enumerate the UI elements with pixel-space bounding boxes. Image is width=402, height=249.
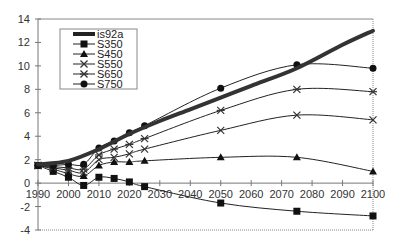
y-tick-label: 6 xyxy=(24,107,30,119)
x-tick-label: 2020 xyxy=(117,188,141,200)
square-marker xyxy=(95,174,102,181)
square-marker xyxy=(111,175,118,182)
square-marker xyxy=(80,182,87,189)
series-line xyxy=(38,115,373,173)
x-tick-label: 2070 xyxy=(269,188,293,200)
x-tick-label: 2010 xyxy=(87,188,111,200)
line-chart: -4-2024681012141990200020102020203020402… xyxy=(0,0,402,249)
star-marker xyxy=(217,107,225,114)
x-marker xyxy=(217,127,224,134)
square-marker xyxy=(126,178,133,185)
x-tick-label: 2040 xyxy=(178,188,202,200)
x-tick-label: 2060 xyxy=(239,188,263,200)
star-marker xyxy=(293,86,301,93)
square-marker xyxy=(217,200,224,207)
x-tick-label: 2050 xyxy=(208,188,232,200)
series-line xyxy=(38,156,373,176)
x-marker xyxy=(126,150,133,157)
y-tick-label: -2 xyxy=(20,201,30,213)
x-marker xyxy=(141,146,148,153)
x-tick-label: 2100 xyxy=(361,188,385,200)
square-marker xyxy=(370,212,377,219)
circle-marker xyxy=(217,85,224,92)
square-marker xyxy=(141,183,148,190)
x-tick-label: 2080 xyxy=(300,188,324,200)
y-tick-label: 12 xyxy=(18,36,30,48)
y-tick-label: 14 xyxy=(18,13,30,25)
square-marker xyxy=(293,208,300,215)
circle-marker xyxy=(370,65,377,72)
y-tick-label: 10 xyxy=(18,60,30,72)
series-s650 xyxy=(34,86,377,173)
y-tick-label: 8 xyxy=(24,83,30,95)
star-marker xyxy=(110,146,118,153)
x-tick-label: 1990 xyxy=(26,188,50,200)
y-tick-label: -4 xyxy=(20,224,30,236)
legend: is92aS350S450S550S650S750 xyxy=(60,28,137,90)
y-tick-label: 4 xyxy=(24,130,30,142)
circle-marker xyxy=(80,161,87,168)
y-tick-label: 2 xyxy=(24,154,30,166)
legend-label: S750 xyxy=(97,78,123,90)
square-marker xyxy=(81,41,88,48)
x-tick-label: 2090 xyxy=(330,188,354,200)
star-marker xyxy=(141,135,149,142)
x-tick-label: 2000 xyxy=(56,188,80,200)
circle-marker xyxy=(81,81,88,88)
star-marker xyxy=(125,141,133,148)
